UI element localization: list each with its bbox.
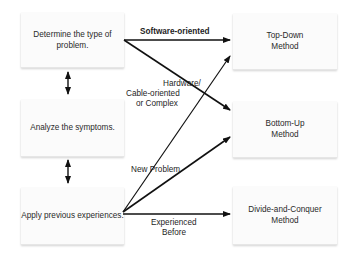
label-experienced-line2: Before <box>162 228 186 238</box>
label-hardware-line3: or Complex <box>136 99 178 109</box>
label-experienced-line1: Experienced <box>151 218 197 228</box>
label-new-problem: New Problem <box>131 165 180 175</box>
label-hardware-line1: Hardware/ <box>163 79 201 89</box>
label-software-oriented: Software-oriented <box>140 27 210 37</box>
label-hardware-line2: Cable-oriented <box>126 89 180 99</box>
